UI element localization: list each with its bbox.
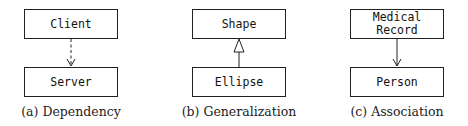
class-name-person: Person xyxy=(376,75,418,90)
caption-association: (c) Association xyxy=(347,104,447,119)
class-box-person: Person xyxy=(350,67,444,97)
